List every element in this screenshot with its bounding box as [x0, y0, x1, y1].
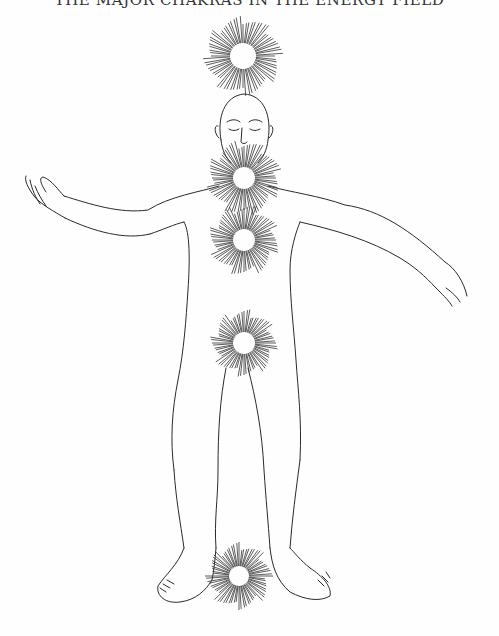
chakra-rays	[203, 16, 283, 610]
book-page: THE MAJOR CHAKRAS IN THE ENERGY FIELD	[0, 0, 499, 636]
chakra-heart-burst	[210, 206, 278, 274]
chakra-throat-burst	[207, 141, 281, 215]
body-outline	[25, 94, 467, 602]
chakra-sacral-burst	[211, 310, 278, 377]
human-figure-illustration	[0, 0, 499, 636]
chakra-crown-burst	[203, 16, 283, 96]
